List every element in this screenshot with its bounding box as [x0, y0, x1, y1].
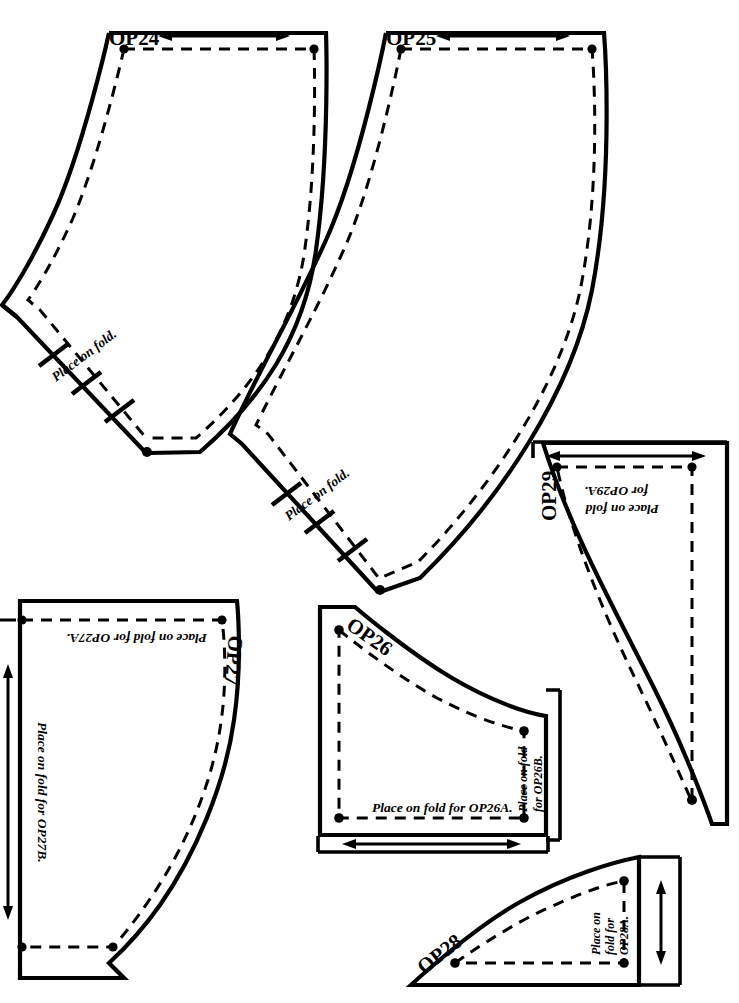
- pattern-piece-op28: OP28 Place on fold for OP28A.: [411, 857, 680, 985]
- op28-dot-br: [619, 958, 629, 968]
- op26-fold-note-right-line2: for OP26B.: [531, 755, 545, 812]
- op26-fold-note-right-line1: Place on fold: [516, 746, 530, 812]
- op28-fold-note-line2: fold for: [603, 918, 617, 955]
- pattern-piece-op24: OP24 Place on fold.: [2, 26, 327, 457]
- op29-label: OP29: [537, 471, 561, 521]
- op29-fold-note-line1: Place on fold: [585, 502, 659, 517]
- op29-fold-note-line2: for OP29A.: [584, 484, 648, 499]
- op27-dot-tl: [17, 615, 26, 624]
- op26-stitch-line: [339, 630, 524, 818]
- op29-dot-bottom: [687, 795, 697, 805]
- op26-dot-bl: [334, 813, 344, 823]
- op27-label: OP27: [220, 635, 248, 687]
- op24-notch-edge: [2, 305, 17, 317]
- op24-stitch-line: [28, 49, 315, 438]
- op28-grainline-arrow: [656, 880, 666, 965]
- op26-grainline-arrow: [342, 839, 521, 849]
- op27-grainline-arrow: [3, 664, 13, 920]
- op28-dot-tr: [619, 876, 629, 886]
- op28-fold-note-line1: Place on: [589, 912, 603, 955]
- op25-label: OP25: [386, 26, 436, 50]
- op24-fold-note: Place on fold.: [49, 326, 119, 384]
- op25-fold-note: Place on fold.: [282, 465, 352, 523]
- op27-fold-note-top: Place on fold for OP27A.: [66, 631, 207, 646]
- op25-dot-bottom: [375, 585, 385, 595]
- op27-dot-tr: [217, 615, 226, 624]
- op27-fold-note-left: Place on fold for OP27B.: [35, 722, 50, 863]
- op25-dot-tr: [587, 44, 596, 53]
- pattern-diagram: OP24 Place on fold. OP25: [0, 0, 739, 1003]
- op27-stitch-line: [22, 620, 225, 947]
- op24-dot-tr: [309, 44, 318, 53]
- pattern-piece-op29: OP29 Place on fold for OP29A.: [533, 442, 727, 824]
- op26-fold-note-bottom: Place on fold for OP26A.: [372, 800, 513, 815]
- op24-dot-bottom: [142, 447, 152, 457]
- op26-dot-right: [519, 726, 529, 736]
- op29-cut-line: [543, 443, 727, 824]
- op28-fold-note-line3: OP28A.: [617, 916, 631, 955]
- op29-dot-tl: [552, 462, 561, 471]
- pattern-sheet: OP24 Place on fold. OP25: [0, 0, 739, 1003]
- op26-dot-top: [334, 625, 344, 635]
- op28-label: OP28: [412, 929, 466, 979]
- op24-cut-line: [2, 33, 327, 453]
- op29-dot-tr: [687, 462, 696, 471]
- op29-grainline-arrow: [546, 451, 706, 461]
- pattern-piece-op27: OP27 Place on fold for OP27A. Place on f…: [0, 601, 248, 978]
- op27-dot-bl: [17, 942, 26, 951]
- op24-label: OP24: [109, 26, 160, 50]
- pattern-piece-op26: OP26 Place on fold for OP26A. Place on f…: [318, 607, 560, 852]
- op27-dot-br: [108, 942, 117, 951]
- op26-dot-br: [519, 813, 529, 823]
